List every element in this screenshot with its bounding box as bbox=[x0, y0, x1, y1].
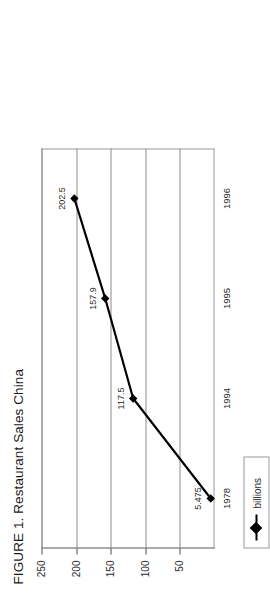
x-axis-tick-label: 1996 bbox=[220, 187, 231, 208]
y-axis-tick-label: 100 bbox=[139, 560, 150, 577]
series-line-billions bbox=[41, 148, 214, 548]
data-point-label: 5.475 bbox=[192, 487, 202, 510]
y-axis-tick-label: 250 bbox=[36, 560, 47, 577]
data-point-label: 202.5 bbox=[56, 187, 66, 210]
y-axis-tick-label: 50 bbox=[174, 560, 185, 571]
data-point-marker bbox=[101, 294, 109, 302]
page-title: FIGURE 1. Restaurant Sales China bbox=[10, 368, 25, 584]
series-line bbox=[74, 198, 210, 498]
data-point-label: 117.5 bbox=[115, 387, 125, 409]
x-axis-tick-label: 1995 bbox=[220, 287, 231, 308]
chart-canvas: FIGURE 1. Restaurant Sales China 2502001… bbox=[0, 0, 241, 610]
y-axis-tick bbox=[110, 548, 111, 554]
y-axis-tick bbox=[41, 548, 42, 554]
y-axis-tick-label: 200 bbox=[70, 560, 81, 577]
data-point-label: 157.9 bbox=[87, 287, 97, 310]
y-axis-tick bbox=[76, 548, 77, 554]
figure-root: FIGURE 1. Restaurant Sales China 2502001… bbox=[0, 0, 241, 610]
y-axis-tick bbox=[179, 548, 180, 554]
y-axis-tick-label: 150 bbox=[105, 560, 116, 577]
data-point-marker bbox=[70, 194, 78, 202]
x-axis-tick-label: 1994 bbox=[220, 387, 231, 408]
y-axis-tick bbox=[145, 548, 146, 554]
x-axis-tick-label: 1978 bbox=[220, 487, 231, 508]
